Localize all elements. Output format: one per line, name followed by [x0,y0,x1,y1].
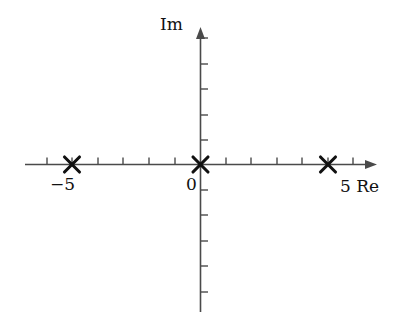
real-axis-label: 5 Re [340,178,379,195]
real-axis-arrowhead [365,160,377,169]
complex-plane-plot [0,0,403,334]
pole-zero-figure: Im −5 0 5 Re [0,0,403,334]
imaginary-axis-arrowhead [196,27,205,39]
real-axis-label-text: Re [356,176,379,196]
origin-label: 0 [186,176,197,193]
x-tick-label-neg5: −5 [50,176,75,193]
x-tick-label-pos5: 5 [340,176,351,196]
imaginary-axis-label: Im [160,16,183,33]
